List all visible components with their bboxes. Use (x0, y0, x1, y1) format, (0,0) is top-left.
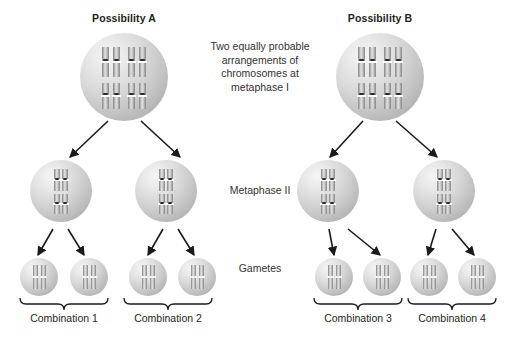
arrow-a-parent-to-metaphase2 (70, 121, 180, 157)
chromosome-icon (54, 194, 60, 214)
metaphase1-line-4: metaphase I (190, 81, 330, 95)
brace-combination-4 (408, 298, 496, 310)
metaphase1-line-2: arrangements of (190, 54, 330, 68)
chromosome-icon (139, 83, 146, 109)
combination-2-label: Combination 2 (118, 312, 218, 324)
chromosome-icon (62, 194, 68, 214)
chromosome-icon (376, 265, 381, 289)
chromosome-icon (479, 265, 484, 289)
chromosome-icon (54, 169, 60, 191)
chromosome-icon (128, 47, 135, 77)
gamete-cell-1 (20, 258, 58, 296)
chromosome-icon (369, 83, 376, 109)
chromosome-icon (395, 47, 402, 77)
chromosome-icon (91, 265, 96, 289)
chromosome-icon (83, 265, 88, 289)
parent-cell-possibility-a (80, 33, 168, 121)
possibility-a-title: Possibility A (64, 12, 184, 24)
chromosome-icon (150, 265, 155, 289)
chromosome-icon (128, 83, 135, 109)
metaphase1-description: Two equally probable arrangements of chr… (190, 40, 330, 94)
metaphase1-line-1: Two equally probable (190, 40, 330, 54)
metaphase2-cell-a-left (30, 160, 92, 222)
combination-1-label: Combination 1 (14, 312, 114, 324)
chromosome-icon (431, 265, 436, 289)
chromosome-icon (102, 47, 109, 77)
chromosome-icon (142, 265, 147, 289)
arrow-a-metaphase2-to-gametes (38, 229, 194, 255)
gametes-label: Gametes (190, 262, 330, 276)
metaphase2-cell-b-right (413, 160, 475, 222)
chromosome-icon (384, 83, 391, 109)
brace-combination-3 (314, 298, 402, 310)
arrow-b-metaphase2-to-gametes (329, 229, 474, 255)
combination-4-label: Combination 4 (402, 312, 502, 324)
chromosome-icon (437, 169, 443, 191)
arrow-b-parent-to-metaphase2 (330, 121, 437, 157)
brace-combination-2 (124, 298, 212, 310)
gamete-cell-3 (129, 258, 167, 296)
chromosome-icon (41, 265, 46, 289)
chromosome-icon (369, 47, 376, 77)
gamete-cell-8 (458, 258, 496, 296)
chromosome-icon (437, 194, 443, 214)
chromosome-icon (159, 194, 165, 214)
metaphase2-cell-a-right (135, 160, 197, 222)
chromosome-icon (102, 83, 109, 109)
chromosome-icon (167, 169, 173, 191)
gamete-cell-2 (70, 258, 108, 296)
chromosome-icon (167, 194, 173, 214)
meiosis-independent-assortment-diagram: Possibility A Possib (0, 0, 520, 339)
chromosome-icon (358, 83, 365, 109)
chromosome-icon (113, 83, 120, 109)
combination-3-label: Combination 3 (308, 312, 408, 324)
chromosome-icon (336, 265, 341, 289)
chromosome-icon (159, 169, 165, 191)
chromosome-icon (139, 47, 146, 77)
chromosome-icon (113, 47, 120, 77)
chromosome-icon (358, 47, 365, 77)
gamete-cell-7 (410, 258, 448, 296)
chromosome-icon (395, 83, 402, 109)
chromosome-icon (445, 169, 451, 191)
chromosome-icon (471, 265, 476, 289)
parent-cell-possibility-b (336, 33, 424, 121)
chromosome-icon (384, 265, 389, 289)
metaphase2-label: Metaphase II (190, 184, 330, 198)
gamete-cell-6 (363, 258, 401, 296)
brace-combination-1 (20, 298, 108, 310)
chromosome-icon (384, 47, 391, 77)
possibility-b-title: Possibility B (320, 12, 440, 24)
chromosome-icon (445, 194, 451, 214)
chromosome-icon (62, 169, 68, 191)
metaphase1-line-3: chromosomes at (190, 67, 330, 81)
chromosome-icon (423, 265, 428, 289)
chromosome-icon (33, 265, 38, 289)
